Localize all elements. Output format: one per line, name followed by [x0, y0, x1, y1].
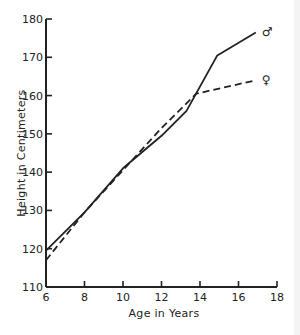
female-symbol-icon: ♀	[262, 73, 271, 87]
female-line	[46, 80, 256, 260]
y-tick-label: 110	[22, 281, 43, 294]
y-tick-label: 170	[22, 51, 43, 64]
x-tick-label: 14	[193, 291, 207, 304]
page-edge	[294, 0, 300, 335]
y-tick-label: 180	[22, 13, 43, 26]
male-line	[46, 32, 256, 250]
x-tick-label: 18	[270, 291, 284, 304]
height-age-chart: 110120130140150160170180 681012141618 ♂♀…	[0, 0, 300, 335]
legend: ♂♀	[262, 25, 273, 87]
x-tick-label: 8	[81, 291, 88, 304]
x-tick-label: 16	[232, 291, 246, 304]
y-tick-label: 120	[22, 243, 43, 256]
series-lines	[46, 32, 256, 260]
male-symbol-icon: ♂	[262, 25, 273, 39]
x-tick-label: 12	[155, 291, 169, 304]
x-axis: 681012141618	[43, 281, 285, 304]
y-axis-title: Height in Centimeters	[15, 89, 28, 216]
x-tick-label: 6	[43, 291, 50, 304]
x-axis-title: Age in Years	[129, 307, 200, 320]
x-tick-label: 10	[116, 291, 130, 304]
